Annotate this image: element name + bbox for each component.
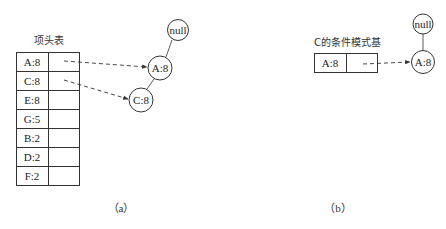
header-row-label: B:2 [24, 132, 40, 144]
node-link-arrow [64, 61, 147, 67]
panel-b: C的条件模式基 A:8 null A:8 （b） [314, 14, 435, 214]
svg-text:null: null [414, 18, 431, 30]
tree-node-c: C:8 [129, 88, 153, 112]
header-row-label: E:8 [24, 94, 40, 106]
node-link-arrow [64, 80, 128, 99]
tree-edge [166, 40, 172, 57]
svg-text:A:8: A:8 [152, 62, 169, 74]
svg-text:null: null [169, 24, 186, 36]
header-row-label: G:5 [24, 113, 41, 125]
caption-b: （b） [324, 202, 352, 214]
header-row-label: F:2 [25, 170, 40, 182]
panel-a: 项头表 A:8 C:8 E:8 G:5 B:2 D:2 F:2 null [17, 20, 189, 215]
tree-node-null: null [413, 14, 433, 34]
svg-text:C:8: C:8 [133, 94, 149, 106]
svg-text:A:8: A:8 [415, 56, 432, 68]
tree-node-a: A:8 [148, 56, 172, 80]
header-row-label: C:8 [24, 75, 40, 87]
header-table-title: 项头表 [34, 34, 64, 46]
header-row-label: D:2 [24, 151, 41, 163]
tree-node-null: null [168, 20, 189, 41]
node-link-arrow [363, 62, 410, 64]
tree-edge [147, 79, 154, 89]
tree-node-a: A:8 [412, 51, 435, 74]
conditional-base-row-label: A:8 [322, 57, 339, 69]
caption-a: （a） [108, 202, 135, 214]
header-row-label: A:8 [24, 56, 41, 68]
conditional-base-title: C的条件模式基 [314, 36, 381, 48]
